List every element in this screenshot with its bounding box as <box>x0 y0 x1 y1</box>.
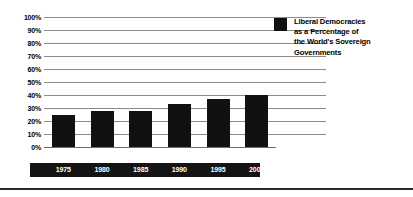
x-tick-label-1980: 1980 <box>83 163 122 177</box>
y-tick-label-80: 80% <box>8 40 41 47</box>
x-tick-label-1975: 1975 <box>44 163 83 177</box>
y-tick-label-70: 70% <box>8 53 41 60</box>
y-tick-label-60: 60% <box>8 66 41 73</box>
y-tick-label-0: 0% <box>8 144 41 151</box>
bar-chart-figure: 100%90%80%70%60%50%40%30%20%10%0% 197519… <box>0 0 413 197</box>
bar-1975 <box>52 115 75 148</box>
y-tick-label-50: 50% <box>8 79 41 86</box>
legend-line-1: Liberal Democracies <box>294 17 371 27</box>
bar-1990 <box>168 104 191 147</box>
bar-1995 <box>207 99 230 147</box>
bar-1980 <box>91 111 114 147</box>
x-axis-band: 197519801985199019952000 <box>30 163 260 177</box>
gridline-0 <box>44 147 276 148</box>
x-tick-label-2000: 2000 <box>237 163 276 177</box>
y-tick-label-100: 100% <box>8 14 41 21</box>
bottom-divider <box>0 188 413 190</box>
y-tick-label-20: 20% <box>8 118 41 125</box>
y-tick-label-10: 10% <box>8 131 41 138</box>
legend: Liberal Democraciesas a Percentage ofthe… <box>274 17 410 58</box>
legend-label: Liberal Democraciesas a Percentage ofthe… <box>294 17 371 58</box>
x-tick-label-1995: 1995 <box>199 163 238 177</box>
y-tick-label-90: 90% <box>8 27 41 34</box>
legend-line-2: as a Percentage of <box>294 27 371 37</box>
legend-line-3: the World's Sovereign <box>294 37 371 47</box>
x-tick-label-1985: 1985 <box>121 163 160 177</box>
y-axis: 100%90%80%70%60%50%40%30%20%10%0% <box>8 17 41 147</box>
x-tick-label-1990: 1990 <box>160 163 199 177</box>
y-tick-label-40: 40% <box>8 92 41 99</box>
legend-swatch-icon <box>274 18 287 31</box>
bar-2000 <box>245 95 268 147</box>
bar-1985 <box>129 111 152 147</box>
y-tick-label-30: 30% <box>8 105 41 112</box>
legend-line-4: Governments <box>294 48 371 58</box>
bars-layer <box>44 17 276 147</box>
